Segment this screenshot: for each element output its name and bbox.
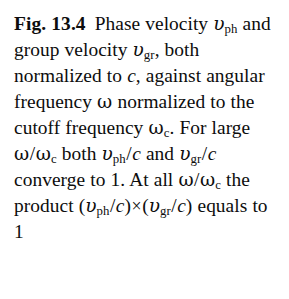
ratio-v-gr-c-1: υgr/c — [179, 143, 216, 164]
ratio-omega-omega-c-2: ω/ωc — [178, 169, 221, 190]
figure-label: Fig. 13.4 — [14, 13, 86, 34]
caption-text-and: and — [146, 143, 174, 164]
symbol-c: c — [208, 143, 217, 164]
v-symbol: υ — [133, 39, 144, 60]
subscript-ph: ph — [113, 152, 126, 166]
caption-text-both: , both — [155, 39, 200, 60]
subscript-ph: ph — [97, 204, 110, 218]
subscript-gr: gr — [191, 152, 202, 166]
symbol-v-ph-1: υph — [213, 13, 237, 34]
subscript-c: c — [51, 152, 57, 166]
symbol-omega-c-1: ωc — [148, 117, 169, 138]
v-symbol: υ — [102, 143, 113, 164]
v-symbol: υ — [213, 13, 224, 34]
symbol-omega: ω — [178, 169, 193, 190]
symbol-omega: ω — [148, 117, 163, 138]
figure-caption: Fig. 13.4Phase velocity υph and group ve… — [14, 11, 282, 245]
symbol-omega: ω — [200, 169, 215, 190]
subscript-c: c — [215, 178, 221, 192]
v-symbol: υ — [179, 143, 190, 164]
symbol-c-1: c — [127, 65, 136, 86]
ratio-v-ph-c-1: υph/c — [102, 143, 141, 164]
symbol-c: c — [132, 143, 141, 164]
caption-text-phase-velocity: Phase velocity — [95, 13, 208, 34]
ratio-omega-omega-c-1: ω/ωc — [14, 143, 57, 164]
symbol-c: c — [177, 195, 186, 216]
caption-text-against: , against — [136, 65, 201, 86]
product-expression: (υph/c)×(υgr/c) — [79, 195, 193, 216]
caption-text-both-2: both — [62, 143, 97, 164]
paren-close-2: ) — [186, 195, 193, 216]
times-symbol: × — [131, 196, 142, 216]
subscript-ph: ph — [225, 22, 238, 36]
caption-text-converge: converge to 1. At all — [14, 169, 173, 190]
caption-text-for-large: . For large — [169, 117, 250, 138]
v-symbol: υ — [85, 195, 96, 216]
caption-text-frequency: frequency — [65, 117, 143, 138]
symbol-v-gr-1: υgr — [133, 39, 155, 60]
symbol-omega-1: ω — [97, 91, 112, 112]
symbol-c: c — [116, 195, 125, 216]
symbol-omega: ω — [36, 143, 51, 164]
subscript-gr: gr — [144, 48, 155, 62]
caption-text-normalized-to: normalized to — [14, 65, 122, 86]
subscript-gr: gr — [160, 204, 171, 218]
v-symbol: υ — [149, 195, 160, 216]
symbol-omega: ω — [14, 143, 29, 164]
